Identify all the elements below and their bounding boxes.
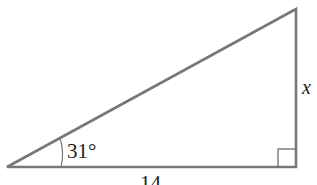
- right-triangle-diagram: 31° x 14: [0, 0, 317, 185]
- right-angle-marker: [278, 149, 296, 167]
- triangle: [7, 9, 296, 167]
- angle-arc: [60, 138, 63, 167]
- angle-label: 31°: [67, 139, 96, 163]
- side-x-label: x: [301, 76, 311, 98]
- side-bottom-label: 14: [140, 171, 162, 185]
